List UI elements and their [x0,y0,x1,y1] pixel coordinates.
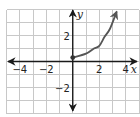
x-tick-label: −4 [12,64,27,75]
function-graph: −4−2242−2 x y [0,0,140,117]
x-tick-label: −2 [39,64,54,75]
axes [8,10,137,111]
x-tick-label: 4 [123,64,129,75]
y-tick-label: −2 [55,83,70,94]
start-point-dot [70,55,75,60]
x-tick-label: 2 [96,64,102,75]
y-axis-label: y [76,8,84,21]
y-tick-label: 2 [63,31,69,42]
x-axis-label: x [131,63,138,76]
